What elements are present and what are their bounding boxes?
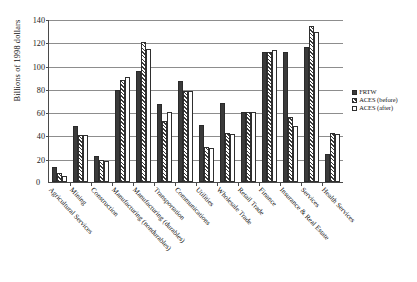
x-axis-label: Finance bbox=[257, 186, 278, 208]
x-axis-label: Health Services bbox=[321, 186, 357, 224]
y-axis-tick-label: 140 bbox=[33, 16, 45, 25]
bar bbox=[293, 126, 298, 182]
bar bbox=[314, 32, 319, 182]
y-axis-tick-label: 120 bbox=[33, 39, 45, 48]
legend: FRTWACES (before)ACES (after) bbox=[352, 88, 398, 113]
bar-groups bbox=[49, 20, 343, 182]
bar bbox=[62, 176, 67, 182]
bar bbox=[146, 49, 151, 182]
x-axis-labels: Agricultural ServicesMiningConstructionM… bbox=[48, 186, 343, 282]
bar-group bbox=[301, 20, 322, 182]
bar bbox=[272, 50, 277, 182]
bar-group bbox=[322, 20, 343, 182]
bar-group bbox=[133, 20, 154, 182]
bar-group bbox=[154, 20, 175, 182]
bar-group bbox=[280, 20, 301, 182]
legend-label: ACES (before) bbox=[359, 96, 398, 104]
y-axis-title: Billions of 1998 dollars bbox=[13, 0, 22, 136]
y-axis-tick-label: 60 bbox=[37, 109, 45, 118]
x-axis-label: Mining bbox=[68, 186, 88, 207]
legend-item: ACES (after) bbox=[352, 104, 398, 112]
y-axis-tick-label: 40 bbox=[37, 132, 45, 141]
bar bbox=[251, 112, 256, 182]
bar bbox=[83, 135, 88, 182]
bar-group bbox=[217, 20, 238, 182]
hatched-swatch bbox=[352, 98, 357, 103]
white-outline-swatch bbox=[352, 106, 357, 111]
legend-item: ACES (before) bbox=[352, 96, 398, 104]
y-axis-tick-label: 20 bbox=[37, 155, 45, 164]
bar bbox=[104, 161, 109, 182]
bar bbox=[209, 148, 214, 182]
y-axis-tick-label: 80 bbox=[37, 85, 45, 94]
bar bbox=[188, 91, 193, 182]
bar-group bbox=[70, 20, 91, 182]
y-axis-tick-mark bbox=[46, 67, 49, 68]
bar bbox=[335, 134, 340, 182]
legend-label: FRTW bbox=[359, 88, 376, 96]
y-axis-tick-mark bbox=[46, 113, 49, 114]
y-axis-tick-mark bbox=[46, 20, 49, 21]
plot-area: 20406080100120140 bbox=[48, 20, 343, 183]
y-axis-tick-mark bbox=[46, 90, 49, 91]
bar-group bbox=[196, 20, 217, 182]
bar bbox=[167, 112, 172, 182]
bar bbox=[125, 77, 130, 182]
y-axis-tick-label: 100 bbox=[33, 62, 45, 71]
bar-group bbox=[175, 20, 196, 182]
y-axis-tick-mark bbox=[46, 160, 49, 161]
solid-dark-swatch bbox=[352, 90, 357, 95]
bar-group bbox=[238, 20, 259, 182]
bar-chart: Billions of 1998 dollars 204060801001201… bbox=[0, 0, 417, 282]
y-axis-tick-mark bbox=[46, 43, 49, 44]
bar-group bbox=[91, 20, 112, 182]
y-axis-tick-mark bbox=[46, 136, 49, 137]
y-axis-tick-zero: 0 bbox=[36, 178, 40, 187]
legend-item: FRTW bbox=[352, 88, 398, 96]
bar-group bbox=[112, 20, 133, 182]
bar-group bbox=[49, 20, 70, 182]
legend-label: ACES (after) bbox=[359, 104, 393, 112]
bar bbox=[230, 134, 235, 182]
bar-group bbox=[259, 20, 280, 182]
